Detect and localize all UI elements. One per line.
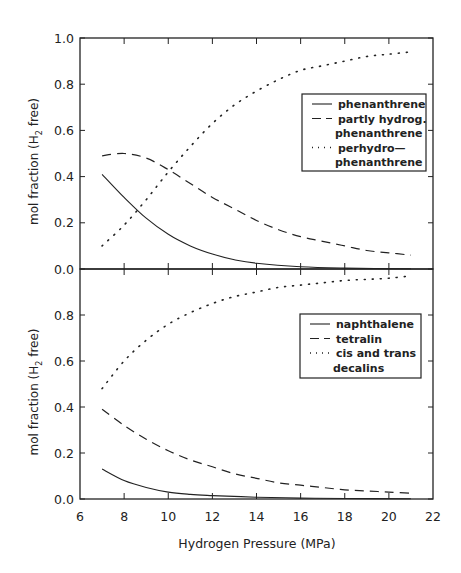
axes-labels: 6810121416182022Hydrogen Pressure (MPa) bbox=[76, 509, 441, 551]
legend-label: decalins bbox=[333, 362, 385, 375]
legend-label: partly hydrog. bbox=[338, 113, 427, 126]
legend-label: cis and trans bbox=[336, 347, 417, 360]
y-tick-label: 0.4 bbox=[54, 169, 74, 184]
legend-label: naphthalene bbox=[336, 318, 414, 331]
x-tick-label: 16 bbox=[293, 509, 309, 524]
x-tick-label: 20 bbox=[381, 509, 397, 524]
y-tick-label: 0.4 bbox=[54, 400, 74, 415]
x-tick-label: 10 bbox=[160, 509, 176, 524]
plot-frame bbox=[80, 269, 433, 499]
x-tick-label: 14 bbox=[249, 509, 265, 524]
y-tick-label: 0.8 bbox=[54, 77, 74, 92]
y-tick-label: 0.6 bbox=[54, 354, 74, 369]
bottom-panel: 0.00.20.40.60.8naphthalenetetralincis an… bbox=[27, 269, 433, 507]
top-panel: 0.00.20.40.60.81.0phenanthrenepartly hyd… bbox=[27, 31, 433, 277]
x-tick-label: 6 bbox=[76, 509, 84, 524]
legend-label: phenanthrene bbox=[338, 98, 426, 111]
y-tick-label: 0.2 bbox=[54, 215, 74, 230]
legend-label: phenanthrene bbox=[335, 127, 423, 140]
legend-label: perhydro— bbox=[338, 142, 406, 155]
legend-label: phenanthrene bbox=[335, 156, 423, 169]
x-tick-label: 18 bbox=[337, 509, 353, 524]
y-tick-label: 0.6 bbox=[54, 123, 74, 138]
y-tick-label: 0.2 bbox=[54, 446, 74, 461]
x-tick-label: 22 bbox=[425, 509, 441, 524]
y-axis-label: mol fraction (H2 free) bbox=[27, 98, 44, 225]
y-tick-label: 1.0 bbox=[54, 31, 74, 46]
legend: naphthalenetetralincis and transdecalins bbox=[300, 314, 421, 378]
y-tick-label: 0.0 bbox=[54, 492, 74, 507]
series-phenanthrene bbox=[102, 174, 411, 268]
x-tick-label: 8 bbox=[120, 509, 128, 524]
series-tetralin bbox=[102, 409, 411, 493]
y-tick-label: 0.8 bbox=[54, 308, 74, 323]
y-tick-label: 0.0 bbox=[54, 262, 74, 277]
legend-label: tetralin bbox=[336, 333, 382, 346]
y-axis-label: mol fraction (H2 free) bbox=[27, 328, 44, 455]
chart-figure: 0.00.20.40.60.81.0phenanthrenepartly hyd… bbox=[0, 0, 461, 573]
x-axis-label: Hydrogen Pressure (MPa) bbox=[178, 536, 335, 551]
x-tick-label: 12 bbox=[204, 509, 220, 524]
legend: phenanthrenepartly hydrog.phenanthrenepe… bbox=[302, 94, 427, 171]
